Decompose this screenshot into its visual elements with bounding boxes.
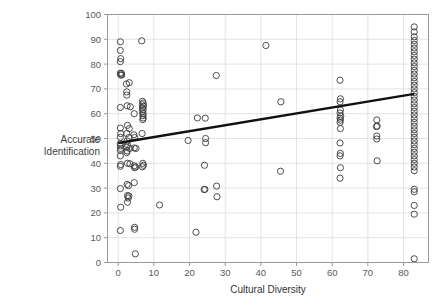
- x-tick-label: 10: [149, 267, 160, 278]
- x-tick-label: 30: [220, 267, 231, 278]
- y-tick-label: 100: [85, 9, 101, 20]
- x-tick-label: 50: [291, 267, 302, 278]
- y-tick-label: 70: [90, 83, 101, 94]
- y-tick-label: 20: [90, 207, 101, 218]
- y-tick-label: 90: [90, 34, 101, 45]
- y-tick-label: 60: [90, 108, 101, 119]
- y-tick-label: 10: [90, 232, 101, 243]
- y-tick-label: 40: [90, 158, 101, 169]
- x-tick-label: 0: [116, 267, 121, 278]
- y-axis-title-line2: Identification: [44, 146, 100, 157]
- y-tick-label: 80: [90, 59, 101, 70]
- x-axis-title: Cultural Diversity: [230, 284, 306, 295]
- x-tick-label: 80: [398, 267, 409, 278]
- x-tick-label: 60: [327, 267, 338, 278]
- y-tick-label: 30: [90, 183, 101, 194]
- x-tick-label: 40: [256, 267, 267, 278]
- x-tick-label: 20: [184, 267, 195, 278]
- y-tick-label: 0: [96, 257, 101, 268]
- x-tick-label: 70: [363, 267, 374, 278]
- y-axis-title-line1: Accurate: [61, 134, 101, 145]
- scatter-plot-figure: 0102030405060708090100 01020304050607080…: [0, 0, 445, 304]
